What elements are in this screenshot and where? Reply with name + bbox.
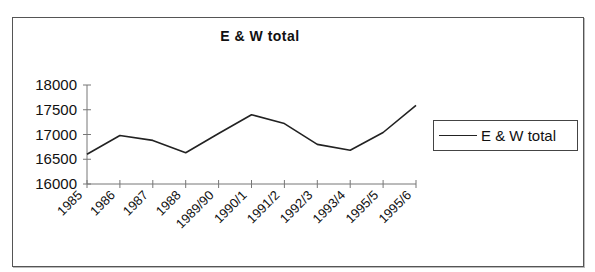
x-tick-label: 1987 — [120, 188, 151, 219]
y-tick-label: 17000 — [35, 126, 77, 143]
x-tick-label: 1990/1 — [211, 188, 250, 227]
x-tick-label: 1995/5 — [342, 188, 381, 227]
y-tick-label: 18000 — [35, 76, 77, 93]
x-tick-label: 1993/4 — [310, 188, 349, 227]
legend-line-swatch — [439, 135, 477, 136]
x-tick-label: 1991/2 — [244, 188, 283, 227]
x-tick-label: 1985 — [54, 188, 85, 219]
y-tick-label: 16500 — [35, 150, 77, 167]
series-line — [87, 105, 416, 154]
x-tick-label: 1995/6 — [375, 188, 414, 227]
y-tick-label: 17500 — [35, 101, 77, 118]
x-tick-label: 1986 — [87, 188, 118, 219]
legend-label: E & W total — [481, 127, 556, 144]
x-tick-label: 1992/3 — [277, 188, 316, 227]
legend: E & W total — [433, 120, 578, 151]
y-tick-label: 16000 — [35, 175, 77, 192]
